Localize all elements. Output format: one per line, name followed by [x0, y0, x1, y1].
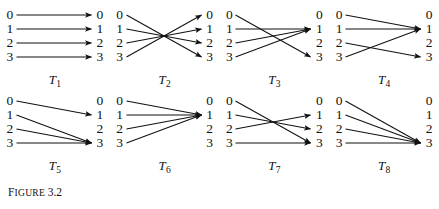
diagram-label-name: T	[268, 158, 275, 173]
codomain-node-2: 2	[312, 122, 326, 136]
diagram-label-name: T	[49, 72, 56, 87]
arrow-2-to-1	[126, 115, 201, 129]
arrow-group-t8	[346, 101, 421, 143]
diagram-label-subscript: 3	[276, 79, 281, 89]
diagram-cell-t3: 0 1 2 3 0 1 2 3 T3	[220, 4, 330, 90]
diagram-label-name: T	[49, 158, 56, 173]
domain-labels-t3: 0 1 2 3	[222, 8, 236, 70]
codomain-node-0: 0	[312, 94, 326, 108]
domain-node-2: 2	[332, 36, 346, 50]
domain-node-3: 3	[3, 136, 17, 150]
diagram-label-name: T	[158, 72, 165, 87]
diagram-label-subscript: 2	[166, 79, 171, 89]
domain-node-0: 0	[3, 8, 17, 22]
diagram-label-subscript: 6	[166, 165, 171, 175]
arrow-group-t6	[126, 101, 201, 143]
codomain-node-3: 3	[422, 50, 436, 64]
arrow-diagram-t3: 0 1 2 3 0 1 2 3	[222, 8, 326, 70]
diagram-label-t5: T5	[0, 158, 110, 175]
diagram-label-subscript: 7	[276, 165, 281, 175]
diagram-label-subscript: 8	[386, 165, 391, 175]
domain-node-3: 3	[222, 50, 236, 64]
arrow-diagram-t6: 0 1 2 3 0 1 2 3	[113, 94, 217, 156]
domain-node-0: 0	[332, 8, 346, 22]
codomain-node-0: 0	[422, 8, 436, 22]
domain-node-0: 0	[113, 8, 127, 22]
domain-node-2: 2	[3, 122, 17, 136]
codomain-node-1: 1	[312, 22, 326, 36]
domain-node-1: 1	[332, 22, 346, 36]
codomain-labels-t1: 0 1 2 3	[93, 8, 107, 70]
codomain-node-0: 0	[312, 8, 326, 22]
codomain-node-2: 2	[203, 36, 217, 50]
diagram-label-name: T	[158, 158, 165, 173]
diagram-label-subscript: 5	[56, 165, 61, 175]
codomain-node-3: 3	[422, 136, 436, 150]
diagram-cell-t4: 0 1 2 3 0 1 2 3 T4	[329, 4, 439, 90]
diagram-grid: 0 1 2 3 0 1 2 3 T1	[0, 4, 439, 176]
codomain-labels-t8: 0 1 2 3	[422, 94, 436, 156]
codomain-labels-t2: 0 1 2 3	[203, 8, 217, 70]
diagram-label-t8: T8	[329, 158, 439, 175]
diagram-label-t6: T6	[110, 158, 220, 175]
diagram-label-name: T	[378, 158, 385, 173]
arrow-svg-t2	[113, 8, 217, 70]
figure-caption: FIGURE3.2	[8, 186, 62, 198]
domain-node-3: 3	[222, 136, 236, 150]
diagram-label-t3: T3	[220, 72, 330, 89]
arrow-2-to-3	[346, 129, 421, 143]
arrow-diagram-t5: 0 1 2 3 0 1 2 3	[3, 94, 107, 156]
domain-node-3: 3	[113, 50, 127, 64]
domain-node-1: 1	[332, 108, 346, 122]
domain-node-2: 2	[222, 36, 236, 50]
codomain-node-2: 2	[93, 36, 107, 50]
arrow-diagram-t2: 0 1 2 3 0 1 2 3	[113, 8, 217, 70]
arrow-group-t7	[236, 101, 311, 143]
domain-node-0: 0	[3, 94, 17, 108]
codomain-labels-t3: 0 1 2 3	[312, 8, 326, 70]
arrow-svg-t1	[3, 8, 107, 70]
domain-node-2: 2	[332, 122, 346, 136]
codomain-node-2: 2	[93, 122, 107, 136]
diagram-label-t1: T1	[0, 72, 110, 89]
arrow-diagram-t8: 0 1 2 3 0 1 2 3	[332, 94, 436, 156]
domain-node-2: 2	[222, 122, 236, 136]
diagram-cell-t8: 0 1 2 3 0 1 2 3 T8	[329, 90, 439, 176]
arrow-0-to-1	[16, 101, 91, 115]
diagram-cell-t2: 0 1 2 3 0 1 2 3 T2	[110, 4, 220, 90]
domain-labels-t1: 0 1 2 3	[3, 8, 17, 70]
codomain-node-1: 1	[203, 22, 217, 36]
diagram-cell-t6: 0 1 2 3 0 1 2 3 T6	[110, 90, 220, 176]
codomain-node-1: 1	[93, 108, 107, 122]
arrow-svg-t7	[222, 94, 326, 156]
codomain-node-0: 0	[422, 94, 436, 108]
diagram-label-name: T	[268, 72, 275, 87]
domain-node-3: 3	[332, 50, 346, 64]
domain-node-0: 0	[332, 94, 346, 108]
arrow-0-to-1	[126, 101, 201, 115]
diagram-cell-t7: 0 1 2 3 0 1 2 3 T7	[220, 90, 330, 176]
arrow-3-to-1	[126, 115, 201, 143]
arrow-diagram-t4: 0 1 2 3 0 1 2 3	[332, 8, 436, 70]
arrow-svg-t3	[222, 8, 326, 70]
domain-node-0: 0	[113, 94, 127, 108]
arrow-group-t2	[126, 15, 201, 57]
domain-labels-t4: 0 1 2 3	[332, 8, 346, 70]
domain-node-1: 1	[3, 22, 17, 36]
codomain-node-0: 0	[203, 94, 217, 108]
arrow-diagram-t7: 0 1 2 3 0 1 2 3	[222, 94, 326, 156]
codomain-node-1: 1	[422, 22, 436, 36]
diagram-label-subscript: 1	[56, 79, 61, 89]
codomain-node-2: 2	[312, 36, 326, 50]
arrow-group-t5	[16, 101, 91, 143]
arrow-svg-t4	[332, 8, 436, 70]
arrow-2-to-3	[16, 129, 91, 143]
codomain-node-2: 2	[422, 122, 436, 136]
domain-node-0: 0	[222, 94, 236, 108]
domain-node-3: 3	[113, 136, 127, 150]
codomain-node-1: 1	[312, 108, 326, 122]
domain-labels-t6: 0 1 2 3	[113, 94, 127, 156]
codomain-node-3: 3	[203, 136, 217, 150]
domain-node-0: 0	[222, 8, 236, 22]
diagram-label-t7: T7	[220, 158, 330, 175]
